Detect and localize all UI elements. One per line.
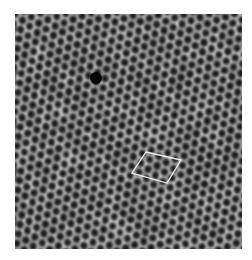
lattice-image xyxy=(15,14,242,249)
lattice-canvas xyxy=(15,14,242,249)
dark-defect xyxy=(90,72,102,84)
